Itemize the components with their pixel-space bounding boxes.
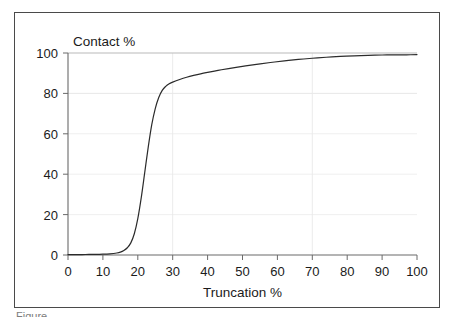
x-tick-label-10: 10 <box>96 264 110 279</box>
x-tick-label-60: 60 <box>270 264 284 279</box>
y-axis-title: Contact % <box>73 34 135 49</box>
figure-frame: 0 20 40 60 80 100 0 10 20 30 40 50 60 70… <box>14 12 440 308</box>
x-axis-ticks <box>68 255 417 260</box>
y-tick-label-60: 60 <box>44 127 58 142</box>
figure-root: 0 20 40 60 80 100 0 10 20 30 40 50 60 70… <box>0 0 455 318</box>
x-tick-label-100: 100 <box>406 264 428 279</box>
y-tick-label-0: 0 <box>51 248 58 263</box>
x-tick-label-20: 20 <box>131 264 145 279</box>
y-axis-ticks <box>63 53 68 255</box>
figure-caption-partial: Figure <box>16 311 136 317</box>
x-axis-tick-labels: 0 10 20 30 40 50 60 70 80 90 100 <box>64 264 427 279</box>
y-axis-tick-labels: 0 20 40 60 80 100 <box>36 46 58 263</box>
grid-lines-vertical <box>173 53 313 255</box>
x-tick-label-90: 90 <box>375 264 389 279</box>
y-tick-label-40: 40 <box>44 167 58 182</box>
data-series-line <box>68 55 417 255</box>
y-tick-label-20: 20 <box>44 208 58 223</box>
x-axis-title: Truncation % <box>203 285 282 300</box>
y-tick-label-100: 100 <box>36 46 58 61</box>
y-tick-label-80: 80 <box>44 86 58 101</box>
x-tick-label-80: 80 <box>340 264 354 279</box>
x-tick-label-40: 40 <box>200 264 214 279</box>
contact-truncation-line-chart: 0 20 40 60 80 100 0 10 20 30 40 50 60 70… <box>15 13 439 307</box>
x-tick-label-70: 70 <box>305 264 319 279</box>
x-tick-label-30: 30 <box>165 264 179 279</box>
x-tick-label-0: 0 <box>64 264 71 279</box>
x-tick-label-50: 50 <box>235 264 249 279</box>
grid-lines-horizontal <box>68 93 417 214</box>
